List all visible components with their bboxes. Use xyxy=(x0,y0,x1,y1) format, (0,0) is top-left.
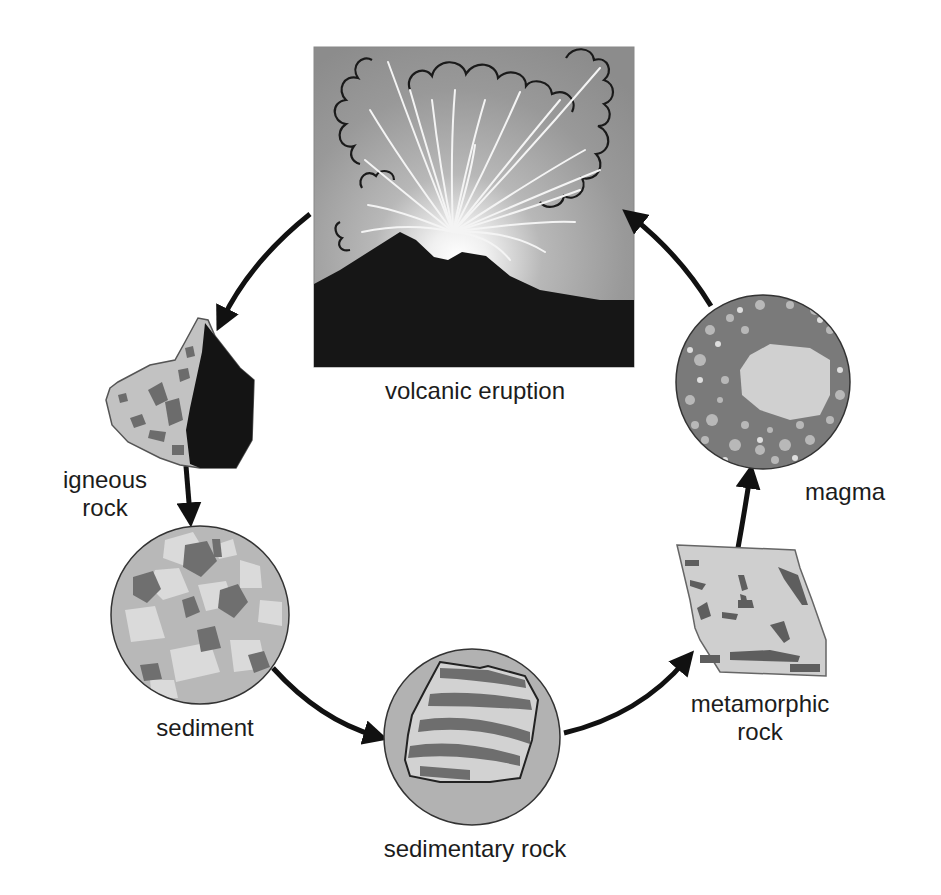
arrow-sediment-to-sedimentary xyxy=(273,668,376,736)
arrow-metamorphic-to-magma xyxy=(738,476,750,548)
sedimentary-rock-image xyxy=(384,649,560,825)
sediment-image xyxy=(111,526,289,704)
igneous-rock-image xyxy=(106,318,254,468)
label-igneous-rock-line1: igneous xyxy=(40,466,170,494)
label-igneous-rock-line2: rock xyxy=(40,494,170,522)
arrow-magma-to-eruption xyxy=(632,217,711,306)
rock-cycle-diagram xyxy=(0,0,941,895)
metamorphic-rock-image xyxy=(677,545,826,676)
label-metamorphic-rock-line1: metamorphic xyxy=(660,690,860,718)
volcanic-eruption-image xyxy=(314,47,634,367)
label-igneous-rock: igneous rock xyxy=(40,466,170,522)
arrow-eruption-to-igneous xyxy=(222,214,310,320)
label-metamorphic-rock: metamorphic rock xyxy=(660,690,860,746)
label-sediment: sediment xyxy=(130,714,280,742)
magma-image xyxy=(676,295,850,469)
label-volcanic-eruption: volcanic eruption xyxy=(330,377,620,405)
label-sedimentary-rock: sedimentary rock xyxy=(350,835,600,863)
label-metamorphic-rock-line2: rock xyxy=(660,718,860,746)
arrow-igneous-to-sediment xyxy=(186,466,190,515)
label-magma: magma xyxy=(790,478,900,506)
